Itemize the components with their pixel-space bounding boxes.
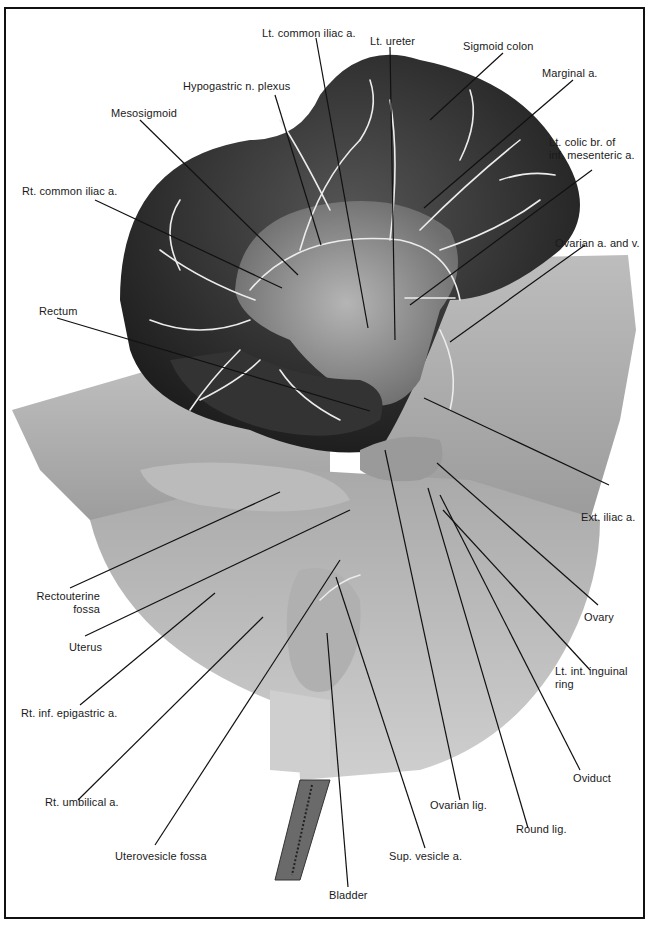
label-lt-colic-br: Lt. colic br. of inf. mesenteric a. bbox=[549, 136, 635, 162]
label-ovarian-lig: Ovarian lig. bbox=[430, 799, 487, 812]
label-uterovesicle-fossa: Uterovesicle fossa bbox=[115, 850, 207, 863]
label-lt-ureter: Lt. ureter bbox=[370, 35, 415, 48]
label-mesosigmoid: Mesosigmoid bbox=[111, 107, 177, 120]
label-ext-iliac-a: Ext. iliac a. bbox=[581, 511, 636, 524]
label-lt-int-inguinal-ring: Lt. int. inguinal ring bbox=[555, 665, 628, 691]
label-rectum: Rectum bbox=[39, 305, 78, 318]
label-bladder: Bladder bbox=[329, 889, 368, 902]
label-rt-common-iliac-a: Rt. common iliac a. bbox=[22, 185, 117, 198]
label-rt-inf-epigastric-a: Rt. inf. epigastric a. bbox=[21, 707, 117, 720]
label-uterus: Uterus bbox=[69, 641, 102, 654]
label-rt-umbilical-a: Rt. umbilical a. bbox=[45, 796, 119, 809]
label-rectouterine-fossa: Rectouterine fossa bbox=[32, 590, 100, 616]
label-ovary: Ovary bbox=[584, 611, 614, 624]
label-sigmoid-colon: Sigmoid colon bbox=[463, 40, 533, 53]
label-ovarian-a-and-v: Ovarian a. and v. bbox=[555, 237, 640, 250]
label-oviduct: Oviduct bbox=[573, 772, 611, 785]
label-marginal-a: Marginal a. bbox=[542, 67, 598, 80]
label-hypogastric-n-plexus: Hypogastric n. plexus bbox=[183, 80, 290, 93]
label-round-lig: Round lig. bbox=[516, 823, 567, 836]
label-lt-common-iliac-a: Lt. common iliac a. bbox=[262, 27, 356, 40]
label-sup-vesicle-a: Sup. vesicle a. bbox=[389, 850, 462, 863]
